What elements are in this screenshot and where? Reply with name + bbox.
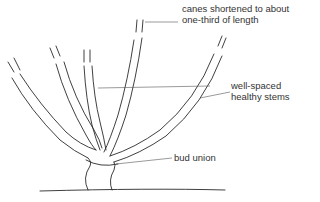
label-canes-line1: canes shortened to about bbox=[182, 3, 289, 14]
label-stems: well-spaced healthy stems bbox=[231, 80, 290, 102]
label-canes-line2: one-third of length bbox=[182, 14, 289, 25]
trunk bbox=[85, 158, 115, 190]
leader-bud-union bbox=[116, 158, 172, 164]
label-bud-union: bud union bbox=[174, 152, 216, 163]
leader-stems-2 bbox=[200, 92, 230, 98]
label-stems-line1: well-spaced bbox=[231, 80, 290, 91]
label-canes: canes shortened to about one-third of le… bbox=[182, 3, 289, 25]
ground-line bbox=[40, 189, 225, 191]
leader-stems-1 bbox=[98, 86, 210, 88]
label-stems-line2: healthy stems bbox=[231, 91, 290, 102]
